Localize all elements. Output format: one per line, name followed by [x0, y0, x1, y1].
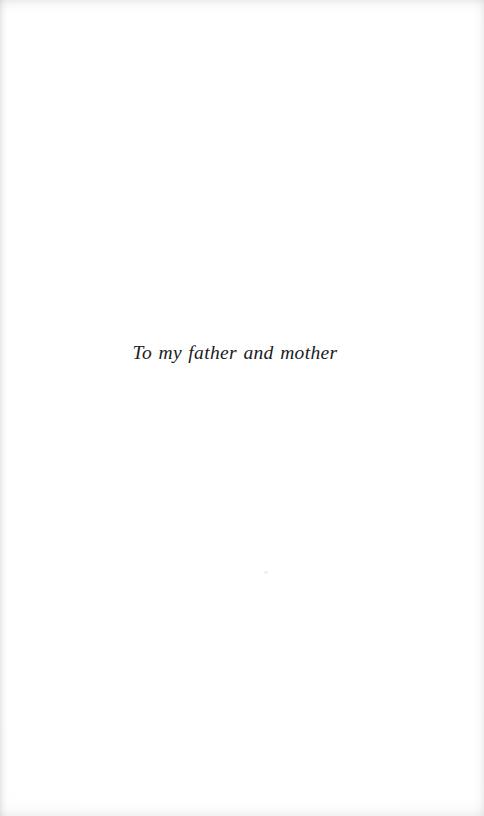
paper-texture [0, 0, 484, 816]
scan-edge-shadow-top [0, 0, 484, 12]
scan-speck-artifact [264, 571, 268, 574]
scan-edge-shadow-left [0, 0, 9, 816]
dedication-block: To my father and mother [0, 341, 470, 365]
scan-edge-shadow-right [474, 0, 484, 816]
scanned-page: To my father and mother [0, 0, 484, 816]
dedication-text: To my father and mother [133, 341, 338, 365]
scan-edge-shadow-bottom [0, 802, 484, 816]
